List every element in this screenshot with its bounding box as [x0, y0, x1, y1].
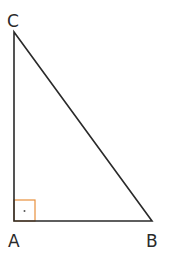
right-triangle-figure: C A B	[0, 0, 169, 265]
vertex-label-b: B	[146, 231, 158, 251]
vertex-label-c: C	[7, 11, 19, 31]
triangle-abc	[14, 32, 152, 221]
right-angle-dot	[24, 210, 26, 212]
vertex-label-a: A	[8, 231, 20, 251]
